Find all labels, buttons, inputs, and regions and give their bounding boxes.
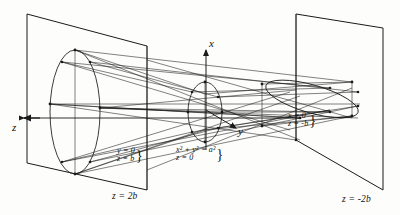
brace-icon: }: [136, 150, 143, 161]
annotation-line-x0-znegb: x = 0 z = -b }: [288, 112, 316, 129]
annotation-circle-x2y2a2-z0: x² + y² = a² z = 0 }: [176, 146, 223, 163]
annotation-line-y0-zb: y = 0 z = b }: [117, 147, 143, 164]
z-axis-label: z: [12, 122, 16, 134]
brace-icon: }: [309, 115, 316, 126]
diagram-svg: [0, 0, 400, 215]
right-plane-label: z = -2b: [342, 195, 371, 205]
annotation-line-2: z = -b: [288, 120, 308, 128]
y-axis-label: y: [238, 126, 243, 138]
right-plane-outline: [296, 14, 383, 190]
annotation-line-2: z = b: [117, 155, 135, 163]
figure-canvas: z x y z = 2b z = -2b y = 0 z = b } x² + …: [0, 0, 400, 215]
annotation-line-2: z = 0: [176, 154, 216, 162]
ruling-family-upper: [62, 50, 358, 97]
x-axis-label: x: [209, 38, 214, 50]
left-plane-label: z = 2b: [112, 192, 138, 202]
brace-icon: }: [217, 149, 224, 160]
